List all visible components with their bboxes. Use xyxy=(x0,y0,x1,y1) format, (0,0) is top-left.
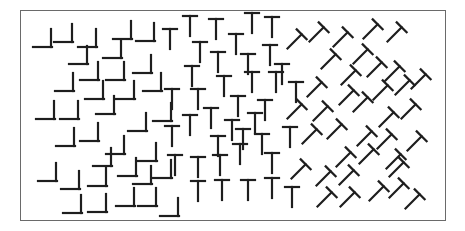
l-shape-element xyxy=(80,123,99,141)
tilted-t-element xyxy=(313,187,337,211)
t-element xyxy=(204,108,218,128)
t-element xyxy=(217,76,231,96)
l-shape-element xyxy=(63,195,82,213)
l-shape-element xyxy=(116,81,135,99)
t-element xyxy=(255,134,269,154)
l-shape-element xyxy=(116,188,135,206)
t-element xyxy=(229,34,243,54)
l-shape-element xyxy=(55,73,74,91)
t-element xyxy=(183,115,197,135)
t-element xyxy=(215,180,229,200)
t-element xyxy=(236,129,250,149)
l-shape-element xyxy=(88,168,107,186)
l-shape-element xyxy=(60,101,79,119)
t-element xyxy=(283,127,297,147)
texture-elements-layer xyxy=(0,0,465,231)
t-element xyxy=(165,126,179,146)
l-shape-element xyxy=(36,101,55,119)
l-shape-element xyxy=(78,29,97,47)
tilted-t-element xyxy=(283,99,307,123)
t-element xyxy=(165,89,179,109)
tilted-t-element xyxy=(397,99,421,123)
t-element xyxy=(263,45,277,65)
tilted-t-element xyxy=(353,126,377,150)
t-element xyxy=(233,144,247,164)
tilted-t-element xyxy=(335,85,359,109)
tilted-t-element xyxy=(391,75,415,99)
tilted-t-element xyxy=(365,181,389,205)
t-element xyxy=(191,181,205,201)
t-element xyxy=(211,136,225,156)
t-element xyxy=(191,157,205,177)
t-element xyxy=(245,13,259,33)
tilted-t-element xyxy=(385,157,409,181)
l-shape-element xyxy=(118,158,137,176)
l-shape-element xyxy=(103,40,122,58)
tilted-t-element xyxy=(298,124,322,148)
tilted-t-element xyxy=(375,107,399,131)
tilted-t-element xyxy=(329,27,353,51)
l-shape-element xyxy=(138,188,157,206)
l-shape-element xyxy=(153,103,172,121)
l-shape-element xyxy=(106,136,125,154)
tilted-t-element xyxy=(355,144,379,168)
l-shape-element xyxy=(56,128,75,146)
l-shape-element xyxy=(38,163,57,181)
tilted-t-element xyxy=(323,119,347,143)
l-shape-element xyxy=(143,73,162,91)
l-shape-element xyxy=(61,171,80,189)
l-shape-element xyxy=(128,113,147,131)
l-shape-element xyxy=(138,143,157,161)
tilted-t-element xyxy=(383,22,407,46)
t-element xyxy=(191,89,205,109)
t-element xyxy=(285,187,299,207)
t-element xyxy=(163,29,177,49)
texture-stimulus-figure xyxy=(0,0,465,231)
t-element xyxy=(231,96,245,116)
l-shape-element xyxy=(133,55,152,73)
l-shape-element xyxy=(113,21,132,39)
t-element xyxy=(211,52,225,72)
tilted-t-element xyxy=(349,92,373,116)
t-element xyxy=(265,153,279,173)
l-shape-element xyxy=(160,198,179,216)
tilted-t-element xyxy=(373,129,397,153)
t-element xyxy=(185,66,199,86)
tilted-t-element xyxy=(363,57,387,81)
tilted-t-element xyxy=(359,19,383,43)
tilted-t-element xyxy=(349,44,373,68)
tilted-t-element xyxy=(303,77,327,101)
t-element xyxy=(275,64,289,84)
t-element xyxy=(241,180,255,200)
tilted-t-element xyxy=(335,165,359,189)
tilted-t-element xyxy=(336,187,360,211)
t-element xyxy=(209,19,223,39)
t-element xyxy=(193,42,207,62)
t-element xyxy=(183,16,197,36)
tilted-t-element xyxy=(317,49,341,73)
l-shape-element xyxy=(106,62,125,80)
l-shape-element xyxy=(54,24,73,42)
l-shape-element xyxy=(93,148,112,166)
tilted-t-element xyxy=(283,29,307,53)
l-shape-element xyxy=(85,81,104,99)
t-element xyxy=(269,72,283,92)
tilted-t-element xyxy=(312,166,336,190)
tilted-t-element xyxy=(401,189,425,213)
t-element xyxy=(265,178,279,198)
t-element xyxy=(265,17,279,37)
l-shape-element xyxy=(88,194,107,212)
tilted-t-element xyxy=(287,159,311,183)
l-shape-element xyxy=(33,29,52,47)
l-shape-element xyxy=(153,160,172,178)
tilted-t-element xyxy=(309,101,333,125)
t-element xyxy=(258,100,272,120)
l-shape-element xyxy=(136,23,155,41)
l-shape-element xyxy=(69,46,88,64)
t-element xyxy=(213,155,227,175)
tilted-t-element xyxy=(305,22,329,46)
tilted-t-element xyxy=(403,131,427,155)
